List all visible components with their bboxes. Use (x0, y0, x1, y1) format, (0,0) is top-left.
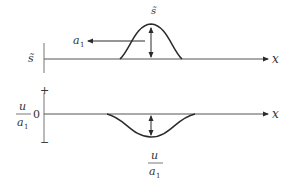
dip-label-den-sub: 1 (156, 172, 160, 180)
top-x-axis-label: x (272, 52, 279, 66)
propagation-speed-sub: 1 (80, 41, 84, 49)
wave-diagram: x s̃ s̃ a 1 + − 0 x u a 1 u a 1 (0, 0, 293, 182)
bump-peak-label: s̃ (151, 5, 157, 16)
plus-label: + (40, 84, 49, 97)
bottom-y-label-den: a (17, 116, 24, 129)
bottom-y-label-num: u (19, 100, 26, 113)
minus-label: − (40, 136, 49, 149)
top-panel: x s̃ s̃ a 1 (28, 5, 279, 73)
propagation-speed-label: a (73, 34, 80, 47)
bottom-panel: + − 0 x u a 1 u a 1 (16, 84, 279, 180)
dip-label-den: a (149, 165, 156, 178)
dip-label-num: u (151, 149, 158, 162)
bottom-x-axis-label: x (272, 107, 279, 121)
top-y-label: s̃ (28, 52, 34, 65)
bottom-y-label-den-sub: 1 (24, 123, 28, 131)
zero-label: 0 (33, 108, 40, 121)
